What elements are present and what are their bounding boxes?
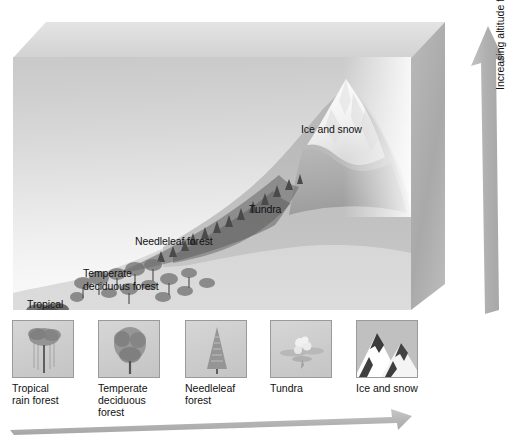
block-right-face: [411, 22, 445, 310]
conifer-tree-icon: [185, 320, 247, 378]
scene-label-tundra: Tundra: [249, 203, 281, 216]
legend-caption-ice-and-snow: Ice and snow: [356, 382, 442, 394]
deciduous-tree-icon: [98, 320, 160, 378]
mountain-illustration: [13, 57, 411, 310]
right-arrow-icon: [0, 404, 519, 436]
scene-label-ice-and-snow: Ice and snow: [301, 123, 362, 136]
tundra-flower-icon: [270, 320, 332, 378]
legend-caption-needleleaf-forest: Needleleaf forest: [185, 382, 271, 406]
atmospheric-haze: [343, 57, 411, 217]
mountain-scene: Ice and snow Tundra Needleleaf forest Te…: [13, 57, 411, 310]
legend-caption-tundra: Tundra: [270, 382, 356, 394]
legend-row: Tropical rain forest Temperate deciduous…: [0, 318, 460, 398]
legend-item-ice-and-snow[interactable]: Ice and snow: [356, 320, 442, 394]
snowy-mountain-icon: [356, 320, 418, 378]
legend-item-tropical-rain-forest[interactable]: Tropical rain forest: [12, 320, 98, 406]
scene-label-needleleaf-forest: Needleleaf forest: [135, 235, 213, 248]
block-top-face: [13, 22, 445, 58]
legend-item-needleleaf-forest[interactable]: Needleleaf forest: [185, 320, 271, 406]
scene-label-tropical-rain-forest: Tropical rain forest: [27, 298, 73, 310]
legend-caption-tropical-rain-forest: Tropical rain forest: [12, 382, 98, 406]
broadleaf-tree-icon: [12, 320, 74, 378]
legend-item-tundra[interactable]: Tundra: [270, 320, 356, 394]
diagram-block: Ice and snow Tundra Needleleaf forest Te…: [0, 0, 460, 318]
scene-label-temperate-deciduous-forest: Temperate deciduous forest: [83, 267, 158, 292]
altitude-axis-label: Increasing altitude from sea level: [494, 0, 506, 90]
right-arrow-shape: [10, 409, 412, 435]
